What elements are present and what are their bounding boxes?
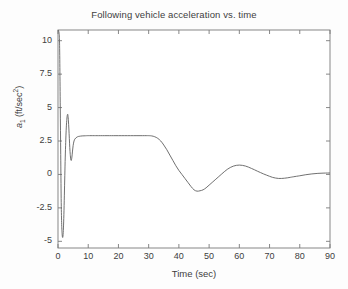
x-tick-label: 50 [197, 251, 221, 261]
chart-plot-area [0, 0, 348, 289]
x-tick-label: 40 [167, 251, 191, 261]
y-tick-label: 10 [22, 35, 52, 45]
y-tick-label: 5 [22, 102, 52, 112]
y-tick-label: -5 [22, 235, 52, 245]
y-axis-label-symbol: a [14, 123, 24, 128]
x-tick-label: 60 [227, 251, 251, 261]
y-tick-label: 7.5 [22, 68, 52, 78]
y-tick-label: 2.5 [22, 135, 52, 145]
x-tick-label: 80 [288, 251, 312, 261]
y-tick-label: 0 [22, 168, 52, 178]
y-tick-label: -2.5 [22, 202, 52, 212]
x-tick-label: 30 [137, 251, 161, 261]
x-axis-label: Time (sec) [58, 268, 330, 279]
chart-figure: Following vehicle acceleration vs. time … [0, 0, 348, 289]
y-axis-label-close: ) [14, 86, 24, 89]
x-tick-label: 90 [318, 251, 342, 261]
y-axis-label-superscript: 2 [12, 89, 19, 93]
y-axis-label-subscript: 1 [19, 119, 26, 123]
x-tick-label: 0 [46, 251, 70, 261]
axes-frame [58, 30, 330, 248]
plot-frame [58, 30, 330, 248]
x-tick-label: 70 [258, 251, 282, 261]
x-tick-label: 10 [76, 251, 100, 261]
x-tick-label: 20 [106, 251, 130, 261]
